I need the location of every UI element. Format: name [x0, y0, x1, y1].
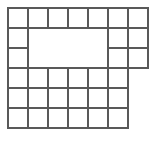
grid-cell [68, 68, 88, 88]
grid-svg-canvas [0, 0, 151, 143]
grid-cell [68, 88, 88, 108]
grid-cells-layer [8, 8, 148, 128]
grid-cell [68, 8, 88, 28]
grid-cell [128, 28, 148, 48]
grid-cell [88, 108, 108, 128]
grid-cell [48, 88, 68, 108]
grid-cell [28, 88, 48, 108]
grid-cell [48, 68, 68, 88]
grid-cell [48, 8, 68, 28]
grid-cell [88, 8, 108, 28]
grid-cell [108, 68, 128, 88]
grid-cell [108, 8, 128, 28]
grid-cell [28, 68, 48, 88]
grid-cell [8, 8, 28, 28]
grid-cell [28, 8, 48, 28]
grid-cell [8, 68, 28, 88]
grid-cell [108, 108, 128, 128]
grid-cell [8, 28, 28, 48]
grid-cell [108, 88, 128, 108]
grid-cell [48, 108, 68, 128]
grid-cell [68, 108, 88, 128]
grid-cell [128, 8, 148, 28]
grid-cell [8, 48, 28, 68]
grid-cell [108, 48, 128, 68]
grid-cell [108, 28, 128, 48]
grid-cell [88, 88, 108, 108]
grid-diagram-figure [0, 0, 151, 143]
grid-cell [8, 108, 28, 128]
grid-cell [8, 88, 28, 108]
grid-cell [128, 48, 148, 68]
grid-cell [88, 68, 108, 88]
grid-cell [28, 108, 48, 128]
